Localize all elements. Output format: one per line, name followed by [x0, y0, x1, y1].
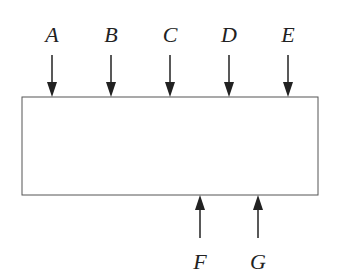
force-arrow-c: C: [163, 22, 178, 97]
arrowhead-icon: [283, 82, 293, 97]
force-arrow-a: A: [43, 22, 59, 97]
force-label: D: [220, 22, 237, 47]
force-diagram: ABCDE FG: [0, 0, 345, 280]
force-label: G: [250, 249, 266, 274]
force-label: E: [280, 22, 295, 47]
top-forces: ABCDE: [43, 22, 295, 97]
bottom-forces: FG: [192, 195, 266, 274]
force-label: C: [163, 22, 178, 47]
force-label: B: [104, 22, 117, 47]
arrowhead-icon: [47, 82, 57, 97]
arrowhead-icon: [106, 82, 116, 97]
force-arrow-g: G: [250, 195, 266, 274]
force-arrow-f: F: [192, 195, 207, 274]
force-label: A: [43, 22, 59, 47]
arrowhead-icon: [224, 82, 234, 97]
arrowhead-icon: [253, 195, 263, 210]
force-label: F: [192, 249, 207, 274]
arrowhead-icon: [195, 195, 205, 210]
arrowhead-icon: [165, 82, 175, 97]
body-rectangle: [22, 97, 318, 195]
force-arrow-d: D: [220, 22, 237, 97]
force-arrow-e: E: [280, 22, 295, 97]
force-arrow-b: B: [104, 22, 117, 97]
